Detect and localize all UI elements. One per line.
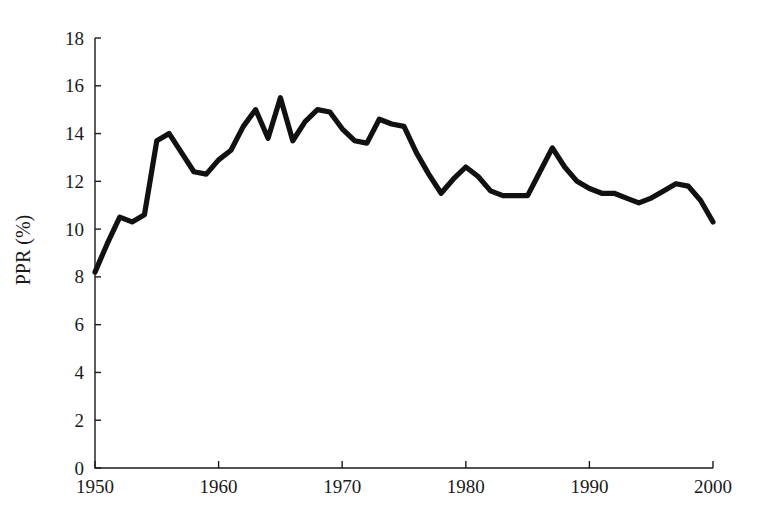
x-tick-label: 1970 bbox=[323, 476, 361, 497]
y-tick-label: 10 bbox=[65, 219, 84, 240]
y-tick-label: 8 bbox=[75, 266, 85, 287]
y-tick-label: 18 bbox=[65, 28, 84, 49]
x-tick-label: 1960 bbox=[200, 476, 238, 497]
ppr-series-line bbox=[95, 98, 713, 272]
chart-figure: 024681012141618 195019601970198019902000… bbox=[0, 0, 766, 523]
line-chart: 024681012141618 195019601970198019902000… bbox=[0, 0, 766, 523]
x-tick-label: 1990 bbox=[570, 476, 608, 497]
y-tick-label: 2 bbox=[75, 410, 85, 431]
axis-spines bbox=[95, 38, 713, 468]
y-tick-label: 16 bbox=[65, 75, 84, 96]
y-tick-label: 4 bbox=[75, 362, 85, 383]
x-tick-label: 1950 bbox=[76, 476, 114, 497]
x-axis: 195019601970198019902000 bbox=[76, 461, 732, 497]
y-tick-label: 14 bbox=[65, 123, 85, 144]
y-tick-label: 6 bbox=[75, 314, 85, 335]
x-tick-label: 1980 bbox=[447, 476, 485, 497]
x-tick-label: 2000 bbox=[694, 476, 732, 497]
y-tick-label: 12 bbox=[65, 171, 84, 192]
y-axis-title: PPR (%) bbox=[12, 215, 35, 286]
